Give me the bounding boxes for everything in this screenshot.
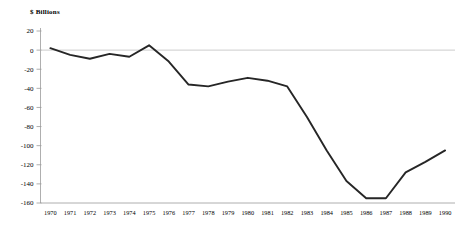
x-axis-tick-label: 1990 [439, 209, 452, 216]
x-axis-tick-label: 1986 [360, 209, 373, 216]
x-axis-tick-label: 1978 [202, 209, 215, 216]
x-axis-tick-label: 1976 [163, 209, 176, 216]
x-axis-tick-label: 1974 [123, 209, 136, 216]
y-axis-tick-label: -80 [24, 123, 34, 131]
y-axis-tick-label: -120 [21, 161, 34, 169]
x-axis-tick-label: 1980 [241, 209, 254, 216]
x-axis-tick-label: 1982 [281, 209, 294, 216]
chart-container: $ Billions 200-20-40-60-80-100-120-140-1… [0, 0, 466, 232]
x-axis-tick-label: 1975 [143, 209, 156, 216]
line-chart-plot: 200-20-40-60-80-100-120-140-160197019711… [0, 0, 466, 232]
y-axis-tick-label: 20 [27, 27, 35, 35]
x-axis-tick-label: 1987 [380, 209, 393, 216]
x-axis-tick-label: 1989 [419, 209, 432, 216]
x-axis-tick-label: 1985 [340, 209, 353, 216]
y-axis-tick-label: -20 [24, 66, 34, 74]
y-axis-tick-label: -160 [21, 199, 34, 207]
y-axis-tick-label: -60 [24, 104, 34, 112]
x-axis-tick-label: 1973 [103, 209, 116, 216]
x-axis-tick-label: 1988 [399, 209, 412, 216]
x-axis-tick-label: 1981 [261, 209, 274, 216]
x-axis-tick-label: 1979 [222, 209, 235, 216]
y-axis-tick-label: -40 [24, 85, 34, 93]
y-axis-tick-label: -140 [21, 180, 34, 188]
y-axis-tick-label: 0 [30, 47, 34, 55]
y-axis-tick-label: -100 [21, 142, 34, 150]
x-axis-tick-label: 1970 [44, 209, 57, 216]
x-axis-tick-label: 1983 [301, 209, 314, 216]
x-axis-tick-label: 1971 [64, 209, 77, 216]
x-axis-tick-label: 1977 [182, 209, 195, 216]
x-axis-tick-label: 1972 [84, 209, 97, 216]
data-series-line [50, 45, 445, 198]
x-axis-tick-label: 1984 [320, 209, 333, 216]
